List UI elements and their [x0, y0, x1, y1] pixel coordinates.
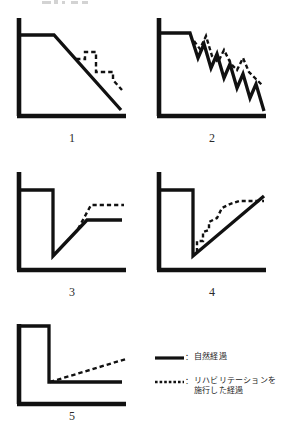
- figure-5-plot: [14, 320, 130, 412]
- figure-4-label: 4: [192, 286, 232, 298]
- figure-3-plot: [14, 168, 130, 278]
- figure-1-plot: [14, 14, 130, 124]
- figure-5-label: 5: [52, 410, 92, 422]
- figure-1-label: 1: [52, 132, 92, 144]
- legend: ： 自然経過 ： リハビリテーションを 施行した経過: [155, 352, 281, 396]
- figure-2-label: 2: [192, 132, 232, 144]
- dashed-line-swatch: [155, 376, 184, 390]
- figure-2-plot: [154, 14, 270, 124]
- figure-3-label: 3: [52, 286, 92, 298]
- figure-3-natural-course-line: [19, 190, 122, 256]
- figure-sheet: 1 2 3: [0, 0, 281, 430]
- legend-label-rehab: リハビリテーションを 施行した経過: [194, 376, 276, 396]
- legend-colon-natural: ：: [184, 352, 194, 363]
- legend-colon-rehab: ：: [184, 376, 194, 387]
- scan-artifact: [42, 0, 90, 6]
- figure-3-rehab-course-line: [78, 205, 124, 229]
- figure-3: [14, 168, 130, 278]
- legend-label-rehab-line2: 施行した経過: [194, 386, 276, 396]
- figure-1-natural-course-line: [19, 35, 121, 110]
- figure-5: [14, 320, 130, 412]
- legend-label-rehab-line1: リハビリテーションを: [194, 376, 276, 385]
- figure-4-plot: [154, 168, 270, 278]
- figure-1: [14, 14, 130, 124]
- legend-label-natural: 自然経過: [194, 352, 227, 362]
- solid-line-swatch: [155, 352, 184, 366]
- figure-1-axes: [17, 18, 126, 116]
- figure-4-natural-course-line: [159, 190, 264, 256]
- figure-5-rehab-course-line: [50, 359, 126, 382]
- legend-item-rehab-course: ： リハビリテーションを 施行した経過: [155, 376, 281, 396]
- figure-2: [154, 14, 270, 124]
- figure-4: [154, 168, 270, 278]
- legend-item-natural-course: ： 自然経過: [155, 352, 281, 366]
- figure-5-natural-course-line: [19, 326, 122, 382]
